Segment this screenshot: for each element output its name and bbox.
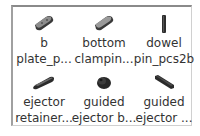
part-item-label: ejector retainer... (10, 94, 78, 126)
rod-part-icon (134, 73, 194, 93)
part-name-line2: retainer... (10, 110, 78, 126)
part-name-line2: clampin... (70, 51, 138, 67)
part-item-b-plate[interactable]: b plate_p... (14, 10, 74, 70)
part-item-label: dowel pin_pcs2b (130, 35, 198, 67)
part-name-line1: guided (70, 94, 138, 110)
part-item-guided-ejector-bushing[interactable]: guided ejector b... (74, 69, 134, 129)
parts-library-panel: b plate_p... bottom clampin... (11, 5, 192, 126)
part-name-line2: ejector b... (70, 110, 138, 126)
part-item-label: guided ejector ... (130, 94, 198, 126)
part-item-guided-ejector-rod[interactable]: guided ejector ... (134, 69, 194, 129)
bushing-part-icon (74, 73, 134, 93)
pin-part-icon (134, 14, 194, 34)
part-name-line2: ejector ... (130, 110, 198, 126)
part-item-ejector-retainer[interactable]: ejector retainer... (14, 69, 74, 129)
plate-part-icon (74, 14, 134, 34)
part-name-line2: pin_pcs2b (130, 51, 198, 67)
part-name-line1: b (10, 35, 78, 51)
part-name-line1: dowel (130, 35, 198, 51)
part-name-line1: bottom (70, 35, 138, 51)
parts-grid: b plate_p... bottom clampin... (13, 7, 191, 125)
part-item-label: guided ejector b... (70, 94, 138, 126)
part-name-line2: plate_p... (10, 51, 78, 67)
part-item-dowel-pin[interactable]: dowel pin_pcs2b (134, 10, 194, 70)
part-name-line1: ejector (10, 94, 78, 110)
part-item-label: bottom clampin... (70, 35, 138, 67)
part-item-bottom-clamping[interactable]: bottom clampin... (74, 10, 134, 70)
plate-part-icon (14, 14, 74, 34)
bar-part-icon (14, 73, 74, 93)
part-name-line1: guided (130, 94, 198, 110)
part-item-label: b plate_p... (10, 35, 78, 67)
